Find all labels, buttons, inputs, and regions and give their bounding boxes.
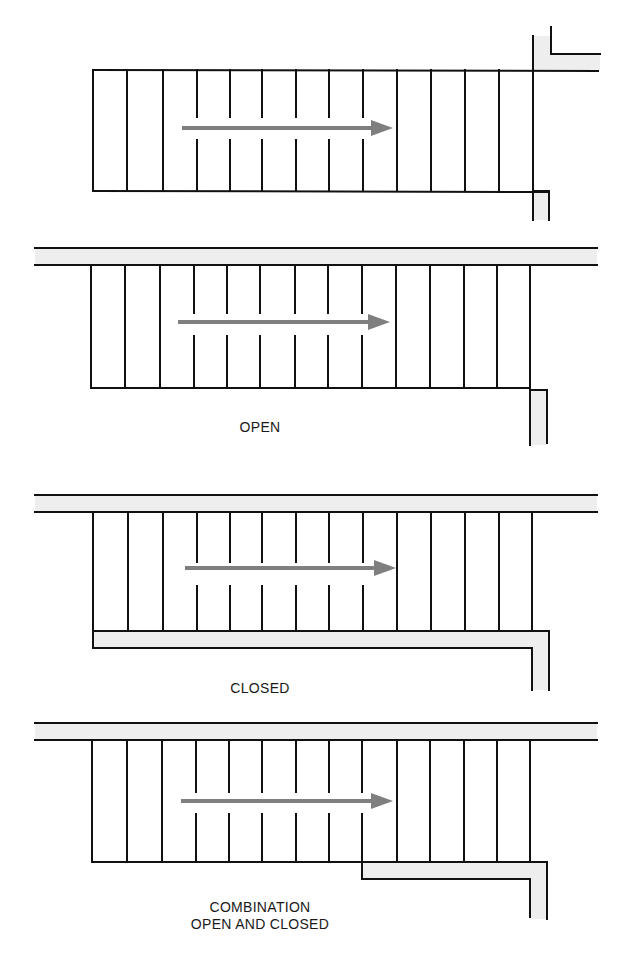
- caption-line: CLOSED: [230, 680, 289, 697]
- caption-line: COMBINATION: [191, 899, 329, 916]
- stair-types-diagram: [0, 0, 630, 958]
- stair-plan-end-wall: [93, 27, 600, 220]
- direction-arrow-head-icon: [368, 314, 390, 330]
- caption-open: OPEN: [240, 419, 281, 436]
- side-wall-fill: [35, 723, 597, 740]
- partial-closed-wall-fill: [362, 862, 547, 919]
- stair-outline: [93, 191, 549, 192]
- direction-arrow-head-icon: [371, 120, 393, 136]
- side-wall-fill: [35, 248, 597, 265]
- caption-line: OPEN AND CLOSED: [191, 916, 329, 933]
- direction-arrow-head-icon: [374, 560, 396, 576]
- side-wall-fill: [35, 495, 597, 512]
- direction-arrow-head-icon: [371, 793, 393, 809]
- wall-line: [93, 70, 598, 71]
- caption-combination: COMBINATION OPEN AND CLOSED: [191, 899, 329, 933]
- caption-line: OPEN: [240, 419, 281, 436]
- stair-plan-open: [35, 248, 597, 445]
- stair-plan-closed: [35, 495, 597, 690]
- stair-plan-combination: [35, 723, 597, 919]
- closed-wall-fill: [93, 631, 549, 690]
- end-wall-fill: [530, 390, 547, 445]
- end-wall-fill: [533, 191, 549, 220]
- caption-closed: CLOSED: [230, 680, 289, 697]
